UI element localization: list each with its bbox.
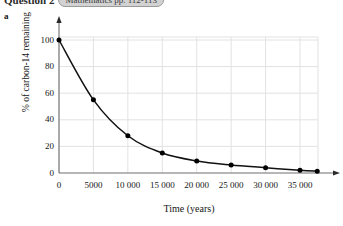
data-point: [315, 169, 320, 174]
data-point-markers: [57, 38, 320, 174]
horizontal-gridlines: [59, 40, 318, 146]
data-point: [229, 163, 234, 168]
data-point: [194, 159, 199, 164]
data-point: [160, 151, 165, 156]
vertical-gridlines: [59, 37, 300, 173]
decay-curve: [59, 40, 317, 171]
data-point: [298, 168, 303, 173]
data-point: [125, 133, 130, 138]
data-point: [57, 38, 62, 43]
data-point: [91, 97, 96, 102]
carbon14-decay-figure: % of carbon-14 remaining 020406080100 05…: [0, 0, 343, 226]
data-point: [263, 165, 268, 170]
plot-area: [0, 0, 343, 226]
